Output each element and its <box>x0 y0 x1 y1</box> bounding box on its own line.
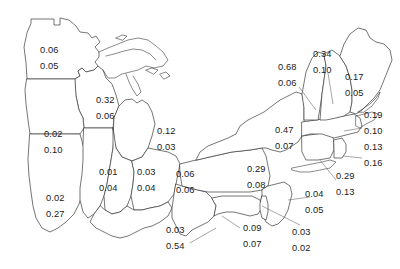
value-top: 0.12 <box>157 127 176 136</box>
state-label-missouri: 0.02 0.27 <box>46 194 65 220</box>
state-label-michigan: 0.12 0.03 <box>157 127 176 153</box>
value-bottom: 0.05 <box>40 62 59 71</box>
value-top: 0.47 <box>275 126 294 135</box>
leader-line-rhode-island <box>343 156 362 158</box>
value-top: 0.06 <box>40 46 59 55</box>
state-label-connecticut: 0.29 0.13 <box>336 172 355 198</box>
value-top: 0.13 <box>364 143 383 152</box>
state-label-new-hampshire: 0.34 0.10 <box>313 50 332 76</box>
state-label-west-virginia: 0.09 0.07 <box>243 224 262 250</box>
value-top: 0.17 <box>345 73 364 82</box>
state-label-rhode-island: 0.13 0.16 <box>364 143 383 169</box>
value-bottom: 0.03 <box>157 143 176 152</box>
state-label-minnesota: 0.06 0.05 <box>40 46 59 72</box>
value-top: 0.04 <box>305 190 324 199</box>
state-label-kentucky: 0.03 0.54 <box>166 226 185 252</box>
value-bottom: 0.08 <box>247 181 266 190</box>
value-bottom: 0.06 <box>96 112 115 121</box>
value-top: 0.03 <box>137 168 156 177</box>
value-bottom: 0.10 <box>364 127 383 136</box>
green-bay-shoreline <box>126 74 141 96</box>
value-bottom: 0.13 <box>336 188 355 197</box>
state-label-indiana: 0.03 0.04 <box>137 168 156 194</box>
lake-michigan-islands <box>146 68 170 79</box>
value-bottom: 0.06 <box>176 186 195 195</box>
isle-royale-outline <box>116 35 127 40</box>
value-top: 0.09 <box>243 224 262 233</box>
value-bottom: 0.04 <box>137 184 156 193</box>
state-shape-delaware <box>260 196 268 220</box>
value-top: 0.68 <box>278 63 297 72</box>
state-label-new-york: 0.47 0.07 <box>275 126 294 152</box>
value-top: 0.29 <box>336 172 355 181</box>
state-label-pennsylvania: 0.29 0.08 <box>247 165 266 191</box>
state-shape-kentucky <box>90 202 172 238</box>
value-bottom: 0.10 <box>313 66 332 75</box>
lake-superior-shoreline <box>106 49 156 60</box>
value-top: 0.03 <box>292 228 311 237</box>
value-bottom: 0.05 <box>305 206 324 215</box>
leader-line-connecticut <box>320 160 336 180</box>
state-shape-maryland <box>212 196 262 216</box>
value-top: 0.03 <box>166 226 185 235</box>
value-top: 0.34 <box>313 50 332 59</box>
value-top: 0.01 <box>99 168 118 177</box>
value-bottom: 0.27 <box>46 210 65 219</box>
state-label-vermont: 0.68 0.06 <box>278 63 297 89</box>
state-label-illinois: 0.01 0.04 <box>99 168 118 194</box>
state-shape-minnesota <box>24 18 100 79</box>
long-island-outline <box>292 160 336 172</box>
state-value-map-figure: 0.06 0.05 0.32 0.06 0.12 0.03 0.02 0.10 … <box>0 0 400 269</box>
value-bottom: 0.02 <box>292 244 311 253</box>
value-top: 0.29 <box>247 165 266 174</box>
state-label-maryland: 0.03 0.02 <box>292 228 311 254</box>
state-shape-iowa <box>25 79 84 134</box>
state-label-massachusetts: 0.19 0.10 <box>364 111 383 137</box>
value-top: 0.02 <box>44 130 63 139</box>
value-bottom: 0.06 <box>278 79 297 88</box>
value-bottom: 0.16 <box>364 159 383 168</box>
state-label-iowa: 0.02 0.10 <box>44 130 63 156</box>
value-bottom: 0.54 <box>166 242 185 251</box>
state-label-maine: 0.17 0.05 <box>345 73 364 99</box>
leader-line-west-virginia <box>222 216 240 228</box>
value-bottom: 0.04 <box>99 184 118 193</box>
state-label-ohio: 0.06 0.06 <box>176 170 195 196</box>
state-shape-michigan-upper <box>99 38 168 78</box>
value-top: 0.19 <box>364 111 383 120</box>
value-bottom: 0.07 <box>275 142 294 151</box>
value-bottom: 0.05 <box>345 89 364 98</box>
leader-line-kentucky <box>190 228 216 243</box>
value-top: 0.02 <box>46 194 65 203</box>
state-label-wisconsin: 0.32 0.06 <box>96 96 115 122</box>
value-bottom: 0.07 <box>243 240 262 249</box>
value-top: 0.06 <box>176 170 195 179</box>
state-label-new-jersey: 0.04 0.05 <box>305 190 324 216</box>
value-bottom: 0.10 <box>44 146 63 155</box>
state-shape-rhode-island <box>334 138 346 158</box>
value-top: 0.32 <box>96 96 115 105</box>
